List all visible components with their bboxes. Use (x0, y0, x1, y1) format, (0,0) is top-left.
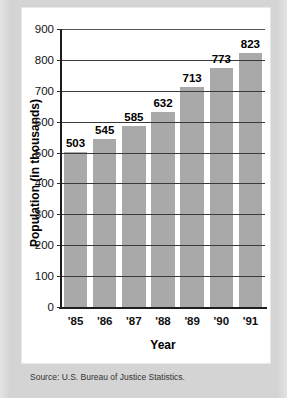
gridline-300 (61, 214, 265, 215)
bar-86[interactable] (93, 139, 116, 307)
chart-figure: Population (in thousands) 01002003004005… (0, 0, 287, 398)
y-tick-mark-300 (57, 214, 61, 215)
y-tick-label-400: 400 (35, 177, 54, 189)
chart-panel: Population (in thousands) 01002003004005… (22, 8, 270, 363)
gridline-600 (61, 122, 265, 123)
y-tick-label-900: 900 (35, 23, 54, 35)
x-axis-title: Year (61, 338, 265, 352)
bar-value-label-85: 503 (66, 137, 85, 149)
bar-90[interactable] (210, 68, 233, 307)
bar-value-label-91: 823 (241, 38, 260, 50)
gridline-200 (61, 245, 265, 246)
y-tick-label-800: 800 (35, 54, 54, 66)
y-axis-line (60, 29, 62, 307)
bar-value-label-90: 773 (212, 53, 231, 65)
y-tick-label-0: 0 (48, 301, 54, 313)
bar-value-label-88: 632 (153, 97, 172, 109)
y-tick-mark-200 (57, 245, 61, 246)
bar-value-label-87: 585 (124, 111, 143, 123)
source-note: Source: U.S. Bureau of Justice Statistic… (30, 372, 185, 382)
gridline-800 (61, 60, 265, 61)
y-tick-label-700: 700 (35, 85, 54, 97)
y-tick-mark-500 (57, 153, 61, 154)
gridline-500 (61, 153, 265, 154)
y-tick-label-300: 300 (35, 208, 54, 220)
y-tick-label-500: 500 (35, 147, 54, 159)
y-tick-label-600: 600 (35, 116, 54, 128)
y-tick-mark-0 (57, 307, 61, 308)
x-axis-line (59, 307, 267, 309)
x-tick-label-85: '85 (68, 315, 84, 327)
gridline-100 (61, 276, 265, 277)
gridline-400 (61, 183, 265, 184)
y-tick-mark-100 (57, 276, 61, 277)
plot-area: 0100200300400500600700800900 50354558563… (61, 29, 265, 307)
y-tick-mark-800 (57, 60, 61, 61)
x-tick-label-88: '88 (155, 315, 171, 327)
gridline-900 (61, 29, 265, 30)
x-tick-label-89: '89 (184, 315, 200, 327)
x-tick-label-86: '86 (97, 315, 113, 327)
y-tick-mark-400 (57, 183, 61, 184)
bar-89[interactable] (180, 87, 203, 307)
y-tick-label-200: 200 (35, 239, 54, 251)
x-tick-label-91: '91 (243, 315, 259, 327)
x-tick-label-87: '87 (126, 315, 142, 327)
y-tick-mark-600 (57, 122, 61, 123)
bar-value-label-89: 713 (183, 72, 202, 84)
y-tick-mark-900 (57, 29, 61, 30)
bar-88[interactable] (151, 112, 174, 307)
bar-value-label-86: 545 (95, 124, 114, 136)
y-tick-mark-700 (57, 91, 61, 92)
bar-85[interactable] (64, 152, 87, 307)
x-tick-label-90: '90 (214, 315, 230, 327)
y-tick-label-100: 100 (35, 270, 54, 282)
gridline-700 (61, 91, 265, 92)
